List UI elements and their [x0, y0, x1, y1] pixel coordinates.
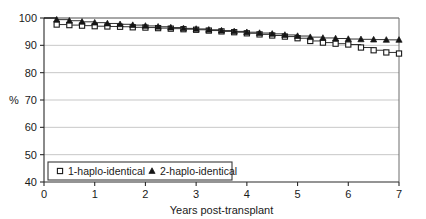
- x-tick-label-3: 3: [193, 188, 199, 200]
- x-tick-label-0: 0: [41, 188, 47, 200]
- x-tick-label-5: 5: [295, 188, 301, 200]
- y-tick-label-60: 60: [25, 121, 37, 133]
- data-point-marker: [54, 22, 59, 27]
- y-tick-label-90: 90: [25, 39, 37, 51]
- x-tick-label-1: 1: [92, 188, 98, 200]
- x-tick-label-6: 6: [345, 188, 351, 200]
- data-point-marker: [396, 51, 401, 56]
- survival-curve-chart: 405060708090100 01234567 % Years post-tr…: [0, 0, 426, 219]
- data-point-marker: [346, 42, 351, 47]
- chart-container: 405060708090100 01234567 % Years post-tr…: [0, 0, 426, 219]
- x-tick-label-2: 2: [142, 188, 148, 200]
- y-tick-label-80: 80: [25, 67, 37, 79]
- y-tick-label-70: 70: [25, 94, 37, 106]
- legend-label-1: 1-haplo-identical: [68, 165, 145, 177]
- x-tick-label-7: 7: [396, 188, 402, 200]
- legend-label-2: 2-haplo-identical: [160, 165, 237, 177]
- data-point-marker: [358, 45, 363, 50]
- data-series-group: [44, 16, 402, 56]
- data-point-marker: [384, 50, 389, 55]
- y-tick-label-50: 50: [25, 149, 37, 161]
- legend-entry-2[interactable]: 2-haplo-identical: [149, 165, 237, 177]
- legend-entry-1[interactable]: 1-haplo-identical: [57, 165, 145, 177]
- y-tick-label-100: 100: [19, 12, 37, 24]
- data-point-marker: [371, 48, 376, 53]
- legend-marker-open-square-icon: [57, 168, 62, 173]
- data-point-marker: [320, 40, 325, 45]
- y-axis-label: %: [9, 94, 19, 106]
- x-axis-label: Years post-transplant: [170, 204, 274, 216]
- chart-legend[interactable]: 1-haplo-identical2-haplo-identical: [48, 162, 237, 180]
- y-axis-ticks-group: 405060708090100: [19, 12, 44, 188]
- y-tick-label-40: 40: [25, 176, 37, 188]
- x-axis-ticks-group: 01234567: [41, 182, 402, 200]
- x-tick-label-4: 4: [244, 188, 250, 200]
- data-point-marker: [333, 41, 338, 46]
